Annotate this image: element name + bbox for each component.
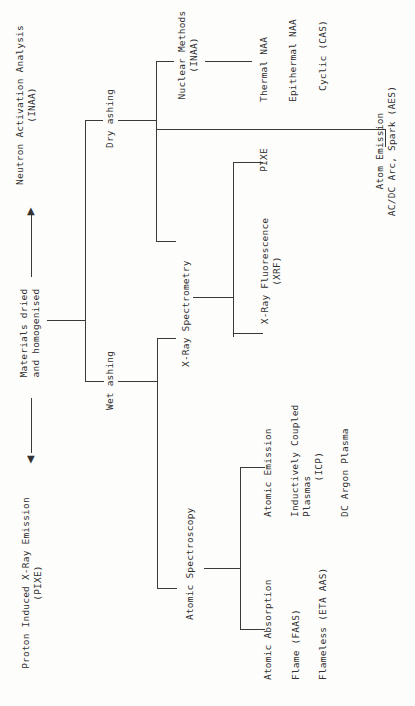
label-xray-spectrometry: X-Ray Spectrometry: [180, 227, 192, 367]
wet-ashing-stub-b: [118, 381, 157, 382]
root-connector: [47, 320, 86, 321]
analytical-methods-tree-diagram: Neutron Activation Analysis (INAA) ▲ Mat…: [0, 0, 415, 706]
label-icp: Inductively Coupled Plasmas (ICP): [289, 377, 325, 517]
arrow-head-up-icon: ▲: [27, 206, 35, 216]
atomic-children-spine: [240, 467, 241, 629]
xray-stub-b: [193, 297, 234, 298]
label-cyclic-cas: Cyclic (CAS): [317, 1, 329, 91]
label-atom-emission: Atom Emission AC/DC Arc, Spark (AES): [374, 76, 398, 226]
label-inaa-target: Neutron Activation Analysis (INAA): [14, 0, 38, 210]
atomic-spec-stub-b: [204, 568, 240, 569]
label-wet-ashing: Wet ashing: [104, 350, 116, 410]
atom-emission-line: [156, 129, 386, 130]
label-flameless-eta-aas: Flameless (ETA AAS): [317, 550, 329, 680]
xray-children-spine: [233, 162, 234, 337]
dry-spine: [156, 61, 157, 242]
label-atomic-emission: Atomic Emission: [262, 407, 274, 517]
wet-ashing-stub-a: [85, 381, 104, 382]
label-atomic-absorption: Atomic Absorption: [262, 570, 274, 680]
label-epithermal-naa: Epithermal NAA: [287, 2, 299, 102]
label-dry-ashing: Dry ashing: [104, 88, 116, 148]
wet-spine: [157, 338, 158, 588]
arrow-line-right: [31, 212, 32, 277]
arrow-line-left: [31, 398, 32, 453]
label-nuclear-methods: Nuclear Methods (INAA): [176, 0, 200, 110]
arrow-head-down-icon: ▲: [27, 455, 35, 465]
nuclear-stub-b: [205, 61, 252, 62]
xray-stub-a: [156, 241, 176, 242]
label-dc-argon-plasma: DC Argon Plasma: [339, 397, 351, 517]
dry-ashing-stub-b: [118, 120, 156, 121]
label-atomic-spectroscopy: Atomic Spectroscopy: [184, 480, 196, 620]
root-spine: [85, 120, 86, 382]
atomic-spec-stub-a: [157, 588, 177, 589]
label-flame-faas: Flame (FAAS): [290, 580, 302, 680]
label-thermal-naa: Thermal NAA: [258, 12, 270, 102]
nuclear-stub-a: [156, 61, 174, 62]
wet-to-xray: [157, 338, 176, 339]
label-xrf: X-Ray Fluorescence (XRF): [259, 206, 283, 336]
dry-ashing-stub-a: [85, 120, 103, 121]
label-pixe-target: Proton Induced X-Ray Emission (PIXE): [20, 478, 44, 688]
label-root-materials: Materials dried and homogenised: [18, 278, 42, 388]
label-pixe: PIXE: [258, 140, 270, 180]
